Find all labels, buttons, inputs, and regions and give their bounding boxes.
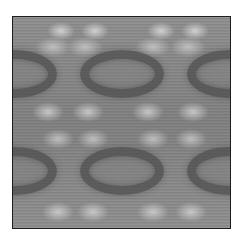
texture-frame [12, 16, 231, 229]
image-canvas [0, 0, 241, 237]
grayscale-texture [13, 17, 230, 228]
dark-ring-center-bottom [80, 147, 164, 195]
dark-ring-center-top [80, 50, 164, 98]
